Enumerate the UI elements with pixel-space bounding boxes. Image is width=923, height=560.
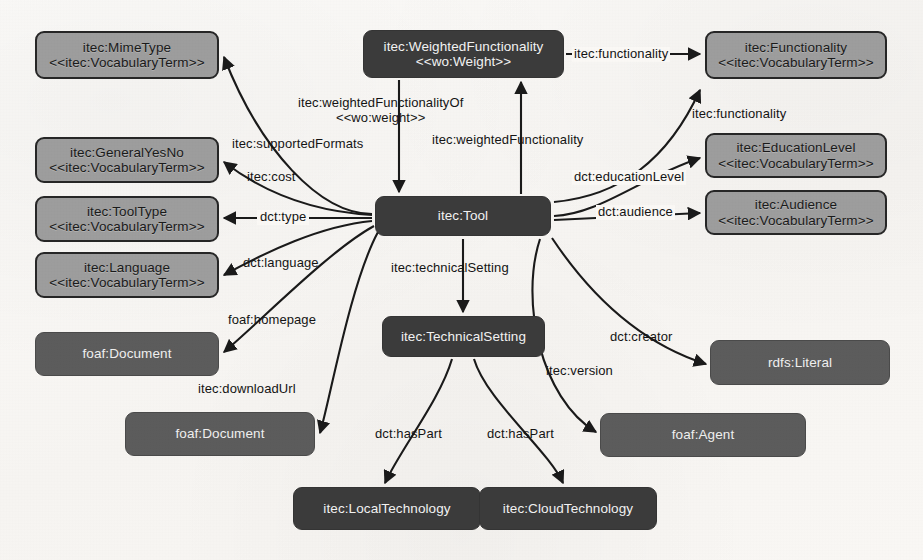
node-itec-educationlevel[interactable]: itec:EducationLevel <<itec:VocabularyTer… (705, 133, 887, 178)
edge-label-weighted-functionality: itec:weightedFunctionality (432, 133, 583, 148)
node-line1: itec:CloudTechnology (503, 501, 633, 516)
node-line1: foaf:Document (175, 426, 264, 441)
edge-label-text: dct:educationLevel (574, 170, 684, 185)
node-itec-language[interactable]: itec:Language <<itec:VocabularyTerm>> (35, 252, 219, 298)
node-line2: <<itec:VocabularyTerm>> (718, 55, 873, 70)
node-line1: foaf:Document (82, 346, 171, 361)
edge-label-homepage: foaf:homepage (228, 313, 316, 328)
edge-label-text: dct:hasPart (375, 427, 442, 442)
diagram-canvas: itec:MimeType <<itec:VocabularyTerm>> it… (0, 0, 923, 560)
edge-label-text: dct:audience (598, 205, 673, 220)
node-foaf-document-homepage[interactable]: foaf:Document (35, 332, 219, 376)
edge-label-functionality-from-weighted: itec:functionality (572, 47, 670, 62)
node-foaf-agent[interactable]: foaf:Agent (600, 413, 806, 457)
node-line1: rdfs:Literal (768, 355, 832, 370)
edge-label-text: itec:functionality (574, 47, 668, 62)
edge-label-language: dct:language (243, 256, 319, 271)
edge-label-audience: dct:audience (596, 205, 675, 220)
node-line1: itec:ToolType (87, 204, 167, 219)
edge-label-text: itec:functionality (692, 107, 786, 122)
edge-label-text: dct:language (243, 256, 319, 271)
edge-label-supported-formats: itec:supportedFormats (232, 137, 363, 152)
edge-label-cost: itec:cost (247, 170, 296, 185)
node-itec-technicalsetting[interactable]: itec:TechnicalSetting (382, 316, 545, 357)
edge-label-creator: dct:creator (610, 330, 673, 345)
node-line1: itec:WeightedFunctionality (384, 39, 544, 54)
edge-label-weighted-functionality-of: itec:weightedFunctionalityOf <<wo:weight… (298, 96, 463, 126)
node-itec-cloudtechnology[interactable]: itec:CloudTechnology (479, 487, 657, 530)
edge-label-download-url: itec:downloadUrl (198, 382, 296, 397)
edge-label-education-level: dct:educationLevel (572, 170, 686, 185)
edge-label-has-part-local: dct:hasPart (375, 427, 442, 442)
node-itec-generalyesno[interactable]: itec:GeneralYesNo <<itec:VocabularyTerm>… (35, 137, 219, 183)
edge-download-url (320, 232, 378, 433)
node-line2: <<wo:Weight>> (416, 54, 512, 69)
edge-label-text: itec:weightedFunctionality (432, 133, 583, 148)
edge-label-text: itec:weightedFunctionalityOf (298, 96, 463, 111)
edge-label-version: itec:version (546, 364, 613, 379)
node-itec-mimetype[interactable]: itec:MimeType <<itec:VocabularyTerm>> (35, 31, 219, 79)
node-line1: itec:GeneralYesNo (70, 145, 184, 160)
edge-label-functionality-from-tool: itec:functionality (692, 107, 786, 122)
node-itec-localtechnology[interactable]: itec:LocalTechnology (293, 487, 481, 530)
node-line1: itec:Tool (438, 208, 488, 223)
node-line1: itec:Audience (755, 197, 837, 212)
node-line1: itec:MimeType (83, 40, 171, 55)
node-line1: itec:Functionality (745, 40, 847, 55)
node-itec-tool[interactable]: itec:Tool (375, 196, 551, 236)
node-itec-tooltype[interactable]: itec:ToolType <<itec:VocabularyTerm>> (35, 196, 219, 242)
edge-label-text-2: <<wo:weight>> (298, 111, 463, 126)
node-line2: <<itec:VocabularyTerm>> (49, 275, 204, 290)
node-foaf-document-download[interactable]: foaf:Document (125, 412, 315, 456)
edge-label-text: dct:type (260, 210, 306, 225)
node-line1: itec:Language (84, 260, 170, 275)
edge-label-type: dct:type (257, 210, 309, 225)
node-line2: <<itec:VocabularyTerm>> (49, 55, 204, 70)
edge-homepage (224, 226, 374, 352)
edge-label-has-part-cloud: dct:hasPart (487, 427, 554, 442)
edge-label-text: itec:version (546, 364, 613, 379)
edge-creator (552, 238, 706, 364)
node-line1: itec:LocalTechnology (323, 501, 450, 516)
edge-label-text: itec:supportedFormats (232, 137, 363, 152)
edge-label-text: itec:cost (247, 170, 296, 185)
edge-label-technical-setting: itec:technicalSetting (391, 261, 509, 276)
node-rdfs-literal[interactable]: rdfs:Literal (710, 340, 890, 385)
edge-label-text: itec:downloadUrl (198, 382, 296, 397)
edge-has-part-local (385, 359, 452, 483)
edge-label-text: dct:hasPart (487, 427, 554, 442)
node-line2: <<itec:VocabularyTerm>> (718, 213, 873, 228)
node-line2: <<itec:VocabularyTerm>> (718, 156, 873, 171)
node-itec-functionality[interactable]: itec:Functionality <<itec:VocabularyTerm… (705, 31, 887, 79)
node-line2: <<itec:VocabularyTerm>> (49, 219, 204, 234)
node-line2: <<itec:VocabularyTerm>> (49, 160, 204, 175)
edge-label-text: foaf:homepage (228, 313, 316, 328)
node-line1: itec:TechnicalSetting (401, 329, 526, 344)
node-line1: itec:EducationLevel (737, 140, 856, 155)
node-itec-audience[interactable]: itec:Audience <<itec:VocabularyTerm>> (705, 190, 887, 235)
node-line1: foaf:Agent (672, 427, 735, 442)
edge-label-text: itec:technicalSetting (391, 261, 509, 276)
node-itec-weightedfunctionality[interactable]: itec:WeightedFunctionality <<wo:Weight>> (363, 30, 564, 78)
edge-label-text: dct:creator (610, 330, 673, 345)
